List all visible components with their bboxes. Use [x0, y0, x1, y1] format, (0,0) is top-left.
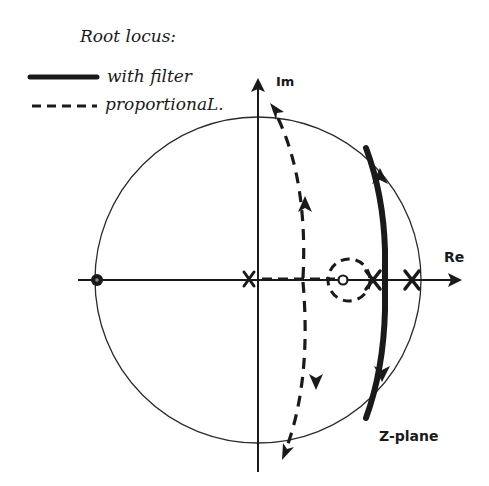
real-axis-label: Re [444, 249, 464, 265]
dashed-locus-lower-branch [285, 282, 305, 452]
imag-axis: Im [251, 74, 294, 472]
legend-title: Root locus: [79, 26, 176, 46]
dashed-lower-mid-arrow-icon [309, 374, 323, 390]
zero-inner [339, 276, 348, 285]
real-axis: Re [78, 249, 464, 287]
dashed-lower-end-arrow-icon [282, 443, 294, 460]
zero-left [91, 274, 103, 286]
legend-solid-label: with filter [107, 66, 193, 86]
dashed-locus-upper-branch [274, 110, 304, 278]
legend: Root locus: with filter proportionaL. [30, 26, 224, 114]
legend-dashed-label: proportionaL. [105, 94, 224, 114]
imag-axis-label: Im [276, 74, 294, 89]
root-locus-diagram: Root locus: with filter proportionaL. Re… [0, 0, 489, 486]
plane-label: Z-plane [379, 428, 438, 444]
